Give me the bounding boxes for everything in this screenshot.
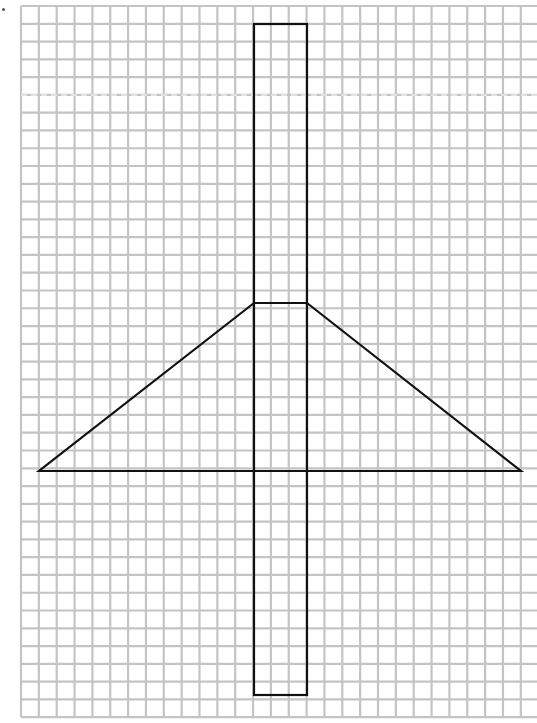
grid-drawing [0,0,537,723]
vertical-rectangle [254,24,307,695]
grid-lines [21,6,537,717]
